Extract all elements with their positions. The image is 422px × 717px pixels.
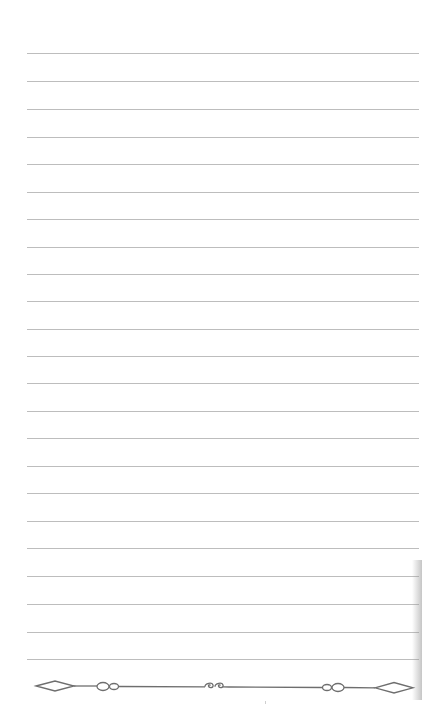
ruled-line <box>27 219 419 220</box>
ruled-line <box>27 356 419 357</box>
ruled-line <box>27 301 419 302</box>
double-loop-icon <box>97 683 119 691</box>
ruled-line <box>27 659 419 660</box>
diamond-icon <box>36 681 74 691</box>
ruled-line <box>27 81 419 82</box>
ruled-line <box>27 521 419 522</box>
ruled-line <box>27 383 419 384</box>
double-loop-icon <box>323 684 345 692</box>
ruled-line <box>27 164 419 165</box>
ruled-line <box>27 192 419 193</box>
ruled-line <box>27 466 419 467</box>
ruled-line <box>27 411 419 412</box>
lined-paper-page <box>0 0 422 717</box>
ruled-line <box>27 576 419 577</box>
paper-speck <box>265 701 266 704</box>
ruled-line <box>27 604 419 605</box>
ruled-line <box>27 632 419 633</box>
scroll-swirl-icon <box>205 683 229 687</box>
ruled-line <box>27 548 419 549</box>
ruled-line <box>27 493 419 494</box>
footer-ornament <box>0 674 422 700</box>
ruled-line <box>27 247 419 248</box>
ruled-line <box>27 438 419 439</box>
ornament-connector-line <box>229 687 322 688</box>
ruled-line <box>27 274 419 275</box>
diamond-icon <box>375 683 413 694</box>
ruled-line <box>27 53 419 54</box>
ruled-line <box>27 109 419 110</box>
ruled-line <box>27 329 419 330</box>
ruled-line <box>27 137 419 138</box>
